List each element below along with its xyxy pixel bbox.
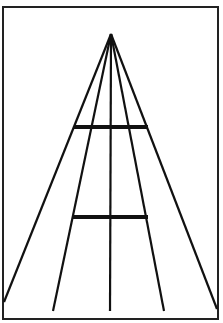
ray-line-5 xyxy=(111,34,217,309)
ray-line-1 xyxy=(4,34,111,302)
ray-line-2 xyxy=(53,34,111,311)
converging-rays xyxy=(4,34,217,311)
ray-line-4 xyxy=(111,34,164,311)
illusion-figure xyxy=(0,0,223,323)
ray-line-3 xyxy=(110,34,111,311)
